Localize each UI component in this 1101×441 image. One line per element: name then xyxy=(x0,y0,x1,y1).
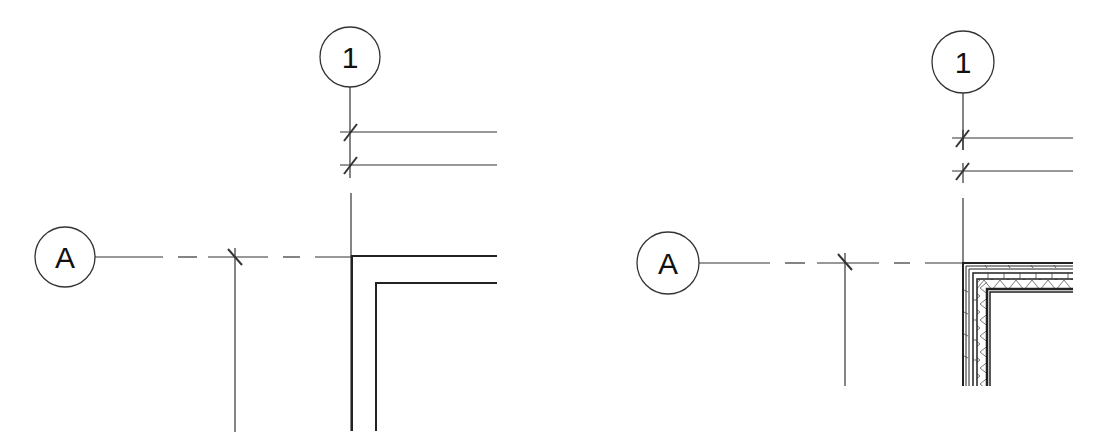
grid-bubble-1: 1 xyxy=(320,27,380,87)
grid-label-1: 1 xyxy=(955,46,972,79)
reference-lines xyxy=(340,124,497,174)
secondary-reference xyxy=(228,248,242,432)
grid-label-1: 1 xyxy=(342,41,359,74)
grid-label-a: A xyxy=(658,247,678,280)
panel-simple-wall: 1 A xyxy=(35,27,497,432)
grid-bubble-a: A xyxy=(35,227,95,287)
wall-corner-simple xyxy=(352,256,497,431)
wall-corner-detailed xyxy=(963,263,1073,386)
grid-label-a: A xyxy=(55,241,75,274)
grid-bubble-1: 1 xyxy=(932,31,994,93)
grid-bubble-a: A xyxy=(637,232,699,294)
panel-detailed-wall: 1 A xyxy=(637,31,1073,386)
reference-lines xyxy=(952,130,1073,183)
drawing-canvas: 1 A xyxy=(0,0,1101,441)
secondary-reference xyxy=(838,253,852,386)
grid-line-1 xyxy=(350,87,351,431)
